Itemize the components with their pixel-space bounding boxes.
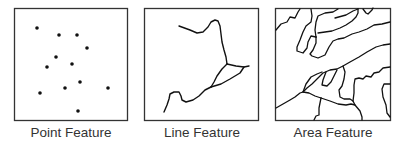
area-feature-label: Area Feature bbox=[268, 124, 398, 142]
line-feature-label: Line Feature bbox=[137, 124, 267, 142]
point-dot bbox=[106, 86, 110, 90]
point-dot bbox=[45, 65, 49, 69]
area-polygons bbox=[276, 8, 390, 120]
point-dots bbox=[35, 26, 110, 113]
point-dot bbox=[38, 91, 42, 95]
point-dot bbox=[70, 62, 74, 66]
line-network bbox=[164, 20, 249, 112]
point-dot bbox=[75, 33, 79, 37]
point-dot bbox=[57, 33, 61, 37]
point-dot bbox=[76, 109, 80, 113]
point-dot bbox=[35, 26, 39, 30]
point-dot bbox=[54, 55, 58, 59]
point-feature-panel bbox=[15, 9, 128, 121]
point-dot bbox=[63, 86, 67, 90]
point-dot bbox=[78, 80, 82, 84]
point-dot bbox=[85, 46, 89, 50]
line-feature-frame bbox=[145, 9, 259, 121]
line-feature-panel bbox=[145, 9, 259, 121]
point-feature-label: Point Feature bbox=[6, 124, 136, 142]
area-feature-panel bbox=[276, 8, 391, 121]
